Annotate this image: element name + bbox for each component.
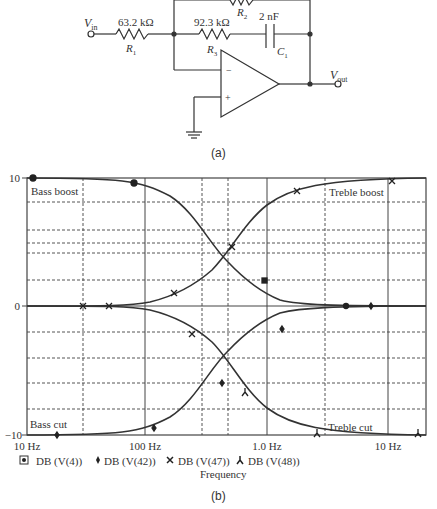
- resistor-r2: [230, 0, 253, 5]
- r2-label: R2: [236, 6, 248, 21]
- annotation-treble-cut: Treble cut: [328, 421, 373, 433]
- r1-label: R1: [125, 42, 137, 57]
- legend-v42: DB (V(42)): [104, 455, 156, 468]
- svg-text:10 Hz: 10 Hz: [375, 440, 402, 452]
- resistor-r3: [199, 29, 230, 39]
- caption-a: (a): [211, 146, 226, 160]
- svg-text:10: 10: [9, 172, 21, 184]
- opamp-minus: −: [226, 65, 232, 76]
- r3-value: 92.3 kΩ: [194, 16, 230, 28]
- vin-label: Vin: [84, 16, 98, 32]
- opamp-plus: +: [225, 92, 231, 103]
- opamp: [221, 50, 279, 117]
- x-axis-title: Frequency: [200, 468, 247, 480]
- annotation-treble-boost: Treble boost: [329, 186, 384, 198]
- figure: Vin 63.2 kΩ R1 R2 92.3 kΩ R3 2 nF C1 − +…: [0, 0, 437, 509]
- ground-icon: [186, 132, 202, 138]
- resistor-r1: [116, 29, 148, 39]
- vout-label: Vout: [330, 68, 348, 84]
- series-bass-cut: [27, 306, 426, 435]
- x-axis-labels: 10 Hz 100 Hz 1.0 Hz 10 Hz: [14, 440, 402, 452]
- c1-value: 2 nF: [259, 10, 279, 22]
- svg-text:100 Hz: 100 Hz: [129, 440, 161, 452]
- c1-label: C1: [277, 45, 288, 60]
- annotation-bass-boost: Bass boost: [31, 185, 78, 197]
- r1-value: 63.2 kΩ: [118, 16, 154, 28]
- svg-text:1.0 Hz: 1.0 Hz: [252, 440, 281, 452]
- legend-v48: DB (V(48)): [248, 455, 300, 468]
- annotation-bass-cut: Bass cut: [30, 418, 67, 430]
- svg-text:10 Hz: 10 Hz: [14, 440, 41, 452]
- y-axis-labels: 10 0 −10: [5, 172, 23, 441]
- legend-v4: DB (V(4)): [36, 455, 82, 468]
- legend-v47: DB (V(47)): [178, 455, 230, 468]
- chart-legend: DB (V(4)) DB (V(42)) DB (V(47)) DB (V(48…: [20, 455, 300, 468]
- caption-b: (b): [211, 489, 226, 503]
- series-treble-cut: [27, 306, 426, 435]
- svg-text:0: 0: [15, 300, 21, 312]
- r3-label: R3: [206, 43, 218, 58]
